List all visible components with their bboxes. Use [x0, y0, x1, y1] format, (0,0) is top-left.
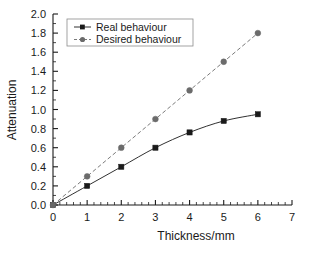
- y-tick-label: 0.2: [31, 180, 46, 192]
- y-tick-label: 0.4: [31, 161, 46, 173]
- data-point: [153, 145, 158, 150]
- x-axis-ticks: [53, 200, 292, 205]
- data-point: [84, 173, 90, 179]
- x-tick-label: 1: [84, 211, 90, 223]
- series-line: [53, 114, 258, 205]
- x-tick-label: 3: [152, 211, 158, 223]
- y-tick-label: 0.6: [31, 142, 46, 154]
- y-tick-label: 1.0: [31, 104, 46, 116]
- data-point: [119, 164, 124, 169]
- x-tick-label: 0: [50, 211, 56, 223]
- data-point: [255, 112, 260, 117]
- data-point: [255, 30, 261, 36]
- data-point: [85, 183, 90, 188]
- x-tick-label: 5: [221, 211, 227, 223]
- data-point: [153, 116, 159, 122]
- data-point: [221, 118, 226, 123]
- y-tick-label: 1.4: [31, 65, 46, 77]
- y-tick-label: 0.0: [31, 199, 46, 211]
- y-tick-label: 1.6: [31, 46, 46, 58]
- x-axis-title: Thickness/mm: [157, 229, 234, 243]
- legend-sample-marker: [80, 25, 85, 30]
- x-tick-label: 7: [289, 211, 295, 223]
- x-tick-label: 2: [118, 211, 124, 223]
- data-point: [118, 145, 124, 151]
- y-axis-title: Attenuation: [5, 80, 19, 141]
- series-real-behaviour: [50, 112, 260, 208]
- data-series-group: [50, 30, 261, 208]
- legend-label: Real behaviour: [96, 21, 167, 33]
- x-axis-tick-labels: 01234567: [50, 211, 295, 223]
- chart-canvas: 0.00.20.40.60.81.01.21.41.61.82.0 012345…: [0, 0, 317, 254]
- y-tick-label: 0.8: [31, 123, 46, 135]
- data-point: [50, 202, 56, 208]
- data-point: [221, 59, 227, 65]
- y-axis-tick-labels: 0.00.20.40.60.81.01.21.41.61.82.0: [31, 8, 46, 211]
- chart-legend: Real behaviourDesired behaviour: [67, 19, 193, 46]
- data-point: [187, 130, 192, 135]
- data-point: [187, 88, 193, 94]
- x-tick-label: 4: [187, 211, 193, 223]
- y-tick-label: 1.2: [31, 84, 46, 96]
- attenuation-vs-thickness-chart: 0.00.20.40.60.81.01.21.41.61.82.0 012345…: [0, 0, 317, 254]
- series-desired-behaviour: [50, 30, 261, 208]
- y-axis-ticks: [53, 14, 58, 205]
- y-tick-label: 2.0: [31, 8, 46, 20]
- y-tick-label: 1.8: [31, 27, 46, 39]
- legend-sample-marker: [80, 37, 85, 42]
- legend-label: Desired behaviour: [96, 33, 182, 45]
- x-tick-label: 6: [255, 211, 261, 223]
